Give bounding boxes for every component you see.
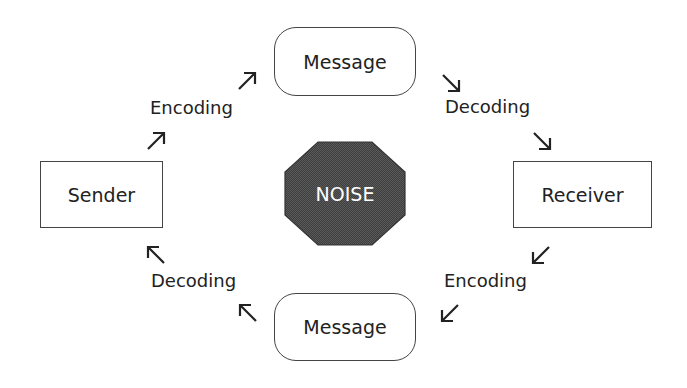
arrow-down-right-icon xyxy=(531,130,553,152)
arrow-down-left-icon xyxy=(439,302,461,324)
edge-label-encoding-bottom-right: Encoding xyxy=(444,270,527,291)
receiver-node: Receiver xyxy=(513,161,652,228)
arrow-down-left-icon xyxy=(530,244,552,266)
edge-label-decoding-bottom-left: Decoding xyxy=(151,270,236,291)
arrow-down-right-icon xyxy=(440,72,462,94)
edge-label-encoding-top-left: Encoding xyxy=(150,97,233,118)
arrow-up-right-icon xyxy=(145,130,167,152)
message-bottom-label: Message xyxy=(303,316,386,338)
arrow-up-right-icon xyxy=(236,70,258,92)
message-top-label: Message xyxy=(303,51,386,73)
message-top-node: Message xyxy=(274,27,416,96)
edge-label-decoding-top-right: Decoding xyxy=(445,96,530,117)
arrow-up-left-icon xyxy=(237,302,259,324)
arrow-up-left-icon xyxy=(145,244,167,266)
receiver-label: Receiver xyxy=(541,184,623,206)
noise-label: NOISE xyxy=(316,183,375,205)
sender-label: Sender xyxy=(68,184,135,206)
message-bottom-node: Message xyxy=(274,293,416,361)
noise-node: NOISE xyxy=(284,141,406,246)
sender-node: Sender xyxy=(40,161,163,228)
